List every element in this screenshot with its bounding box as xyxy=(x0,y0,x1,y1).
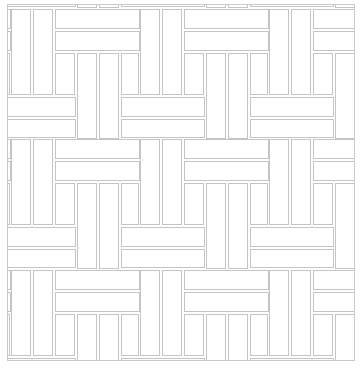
tile-vertical-long xyxy=(11,9,31,95)
tile-horizontal xyxy=(7,9,11,29)
tile-horizontal xyxy=(250,358,334,361)
tile-vertical-long xyxy=(335,183,355,269)
tile-vertical-short xyxy=(250,53,268,95)
tile-horizontal xyxy=(250,249,334,268)
tile-horizontal xyxy=(313,270,355,290)
tile-vertical-long xyxy=(77,53,97,139)
tile-vertical-long xyxy=(269,270,289,356)
tile-vertical-short xyxy=(313,314,333,356)
tile-horizontal xyxy=(121,119,205,138)
tile-horizontal xyxy=(313,9,355,29)
tile-horizontal xyxy=(184,292,269,312)
tile-vertical-long xyxy=(206,4,226,8)
tile-vertical-short xyxy=(184,53,204,95)
tile-vertical-long xyxy=(77,183,97,269)
tile-vertical-long xyxy=(11,270,31,356)
tile-pattern-frame xyxy=(7,4,355,361)
tile-vertical-long xyxy=(228,314,248,361)
tile-horizontal xyxy=(250,119,334,138)
tile-vertical-long xyxy=(335,4,355,8)
tile-vertical-short xyxy=(250,314,268,356)
tile-vertical-long xyxy=(335,314,355,361)
tile-vertical-long xyxy=(99,53,119,139)
tile-horizontal xyxy=(7,249,76,268)
tile-vertical-long xyxy=(77,4,97,8)
tile-vertical-short xyxy=(184,183,204,225)
tile-horizontal xyxy=(55,292,140,312)
tile-vertical-long xyxy=(269,139,289,225)
tile-horizontal xyxy=(184,161,269,181)
tile-vertical-long xyxy=(291,139,311,225)
tile-vertical-short xyxy=(121,314,139,356)
tile-vertical-long xyxy=(206,183,226,269)
tile-vertical-long xyxy=(291,270,311,356)
tile-vertical-long xyxy=(228,183,248,269)
tile-vertical-short xyxy=(7,183,10,225)
tile-vertical-long xyxy=(269,9,289,95)
tile-horizontal xyxy=(55,161,140,181)
tile-horizontal xyxy=(250,227,334,247)
tile-vertical-long xyxy=(33,9,53,95)
tile-horizontal xyxy=(55,270,140,290)
tile-horizontal xyxy=(184,139,269,159)
tile-vertical-long xyxy=(162,9,182,95)
tile-horizontal xyxy=(7,227,76,247)
tile-vertical-long xyxy=(99,4,119,8)
tile-vertical-short xyxy=(55,183,75,225)
tile-vertical-short xyxy=(7,314,10,356)
tile-horizontal xyxy=(55,9,140,29)
tile-horizontal xyxy=(7,4,76,7)
tile-horizontal xyxy=(313,161,355,181)
tile-horizontal xyxy=(121,249,205,268)
tile-vertical-short xyxy=(55,314,75,356)
tile-vertical-short xyxy=(250,183,268,225)
tile-horizontal xyxy=(55,31,140,51)
tile-horizontal xyxy=(250,4,334,7)
tile-vertical-long xyxy=(99,314,119,361)
tile-vertical-long xyxy=(99,183,119,269)
tile-vertical-short xyxy=(121,53,139,95)
tile-horizontal xyxy=(7,139,11,159)
tile-horizontal xyxy=(7,97,76,117)
tile-horizontal xyxy=(121,4,205,7)
tile-vertical-long xyxy=(140,270,160,356)
tile-horizontal xyxy=(55,139,140,159)
tile-vertical-long xyxy=(140,139,160,225)
tile-vertical-long xyxy=(206,314,226,361)
tile-horizontal xyxy=(121,358,205,361)
tile-vertical-long xyxy=(33,270,53,356)
tile-vertical-long xyxy=(162,270,182,356)
tile-horizontal xyxy=(121,97,205,117)
tile-vertical-long xyxy=(11,139,31,225)
tile-horizontal xyxy=(121,227,205,247)
tile-vertical-long xyxy=(335,53,355,139)
tile-vertical-short xyxy=(313,183,333,225)
tile-horizontal xyxy=(7,270,11,290)
tile-vertical-short xyxy=(121,183,139,225)
tile-horizontal xyxy=(313,292,355,312)
tile-vertical-long xyxy=(162,139,182,225)
tile-vertical-long xyxy=(291,9,311,95)
tile-horizontal xyxy=(184,31,269,51)
tile-horizontal xyxy=(313,31,355,51)
tile-vertical-short xyxy=(313,53,333,95)
tile-horizontal xyxy=(7,119,76,138)
tile-vertical-short xyxy=(184,314,204,356)
tile-horizontal xyxy=(250,97,334,117)
tile-horizontal xyxy=(184,9,269,29)
tile-vertical-long xyxy=(206,53,226,139)
tile-vertical-long xyxy=(77,314,97,361)
tile-horizontal xyxy=(313,139,355,159)
tile-vertical-long xyxy=(228,53,248,139)
tile-horizontal xyxy=(7,358,76,361)
tile-vertical-short xyxy=(55,53,75,95)
tile-vertical-long xyxy=(140,9,160,95)
tile-horizontal xyxy=(7,31,11,51)
tile-vertical-long xyxy=(33,139,53,225)
tile-horizontal xyxy=(184,270,269,290)
tile-vertical-long xyxy=(228,4,248,8)
tile-horizontal xyxy=(7,292,11,312)
tile-horizontal xyxy=(7,161,11,181)
tile-vertical-short xyxy=(7,53,10,95)
